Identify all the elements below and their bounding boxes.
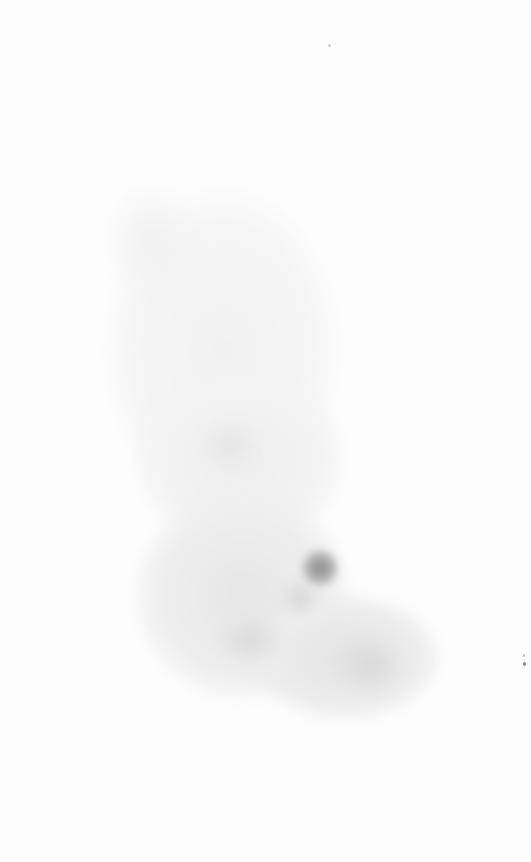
shade-4	[200, 420, 260, 470]
speck-right-edge	[523, 662, 526, 666]
dark-spot	[300, 548, 340, 588]
image-canvas	[0, 0, 531, 862]
shade-2	[215, 615, 285, 665]
region-upper-left	[100, 180, 200, 300]
speck-top	[328, 44, 331, 47]
speck-right-edge-2	[523, 654, 525, 657]
shade-3	[335, 635, 405, 695]
